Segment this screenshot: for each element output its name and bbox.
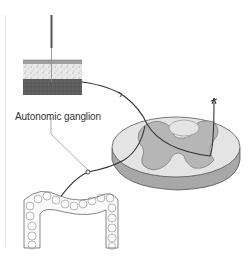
ganglion-node — [86, 170, 90, 174]
autonomic-ganglion-label: Autonomic ganglion — [15, 111, 101, 122]
ganglion-pointer-line — [51, 118, 90, 172]
arrow-icon — [118, 92, 122, 97]
referred-pain-diagram: Autonomic ganglion — [0, 0, 252, 260]
diagram-graphic — [0, 0, 252, 260]
skin-block — [23, 60, 82, 95]
colon — [24, 191, 118, 249]
